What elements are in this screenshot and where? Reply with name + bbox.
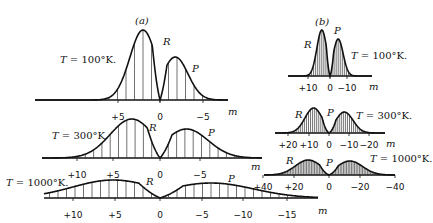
tick-label: −20 <box>360 140 379 150</box>
branch-label-r: R <box>285 155 294 166</box>
axis-label-m: m <box>369 81 378 92</box>
axis-label-m: m <box>228 106 237 117</box>
branch-label-r: R <box>294 109 303 120</box>
branch-label-p: P <box>333 25 341 36</box>
temperature-label: T = 300°K. <box>356 110 412 121</box>
panel-2: +10+50−5−10−15T = 1000°K.RPm <box>6 173 327 220</box>
tick-label: −5 <box>196 112 209 122</box>
panel-5: +40+200−20−40T = 1000°K.RP <box>254 153 433 192</box>
branch-label-p: P <box>191 63 199 74</box>
tick-label: +40 <box>254 182 273 192</box>
tick-label: +5 <box>111 112 124 122</box>
axis-label-m: m <box>386 138 395 149</box>
tick-label: +10 <box>300 140 319 150</box>
tick-label: 0 <box>157 170 163 180</box>
tick-label: −10 <box>340 140 359 150</box>
tick-label: 0 <box>326 182 332 192</box>
tick-label: −15 <box>278 210 297 220</box>
branch-label-r: R <box>145 176 154 187</box>
tick-label: 0 <box>157 210 163 220</box>
branch-label-r: R <box>148 122 157 133</box>
tick-label: −40 <box>386 182 405 192</box>
tick-label: −5 <box>195 210 208 220</box>
tick-label: 0 <box>157 112 163 122</box>
temperature-label: T = 1000°K. <box>370 153 433 164</box>
panel-label: (a) <box>135 15 149 26</box>
tick-label: 0 <box>327 83 333 93</box>
axis-label-m: m <box>318 205 327 216</box>
temperature-label: T = 100°K. <box>60 54 116 65</box>
branch-label-r: R <box>303 39 312 50</box>
tick-label: +10 <box>299 83 318 93</box>
temperature-label: T = 100°K. <box>351 50 407 61</box>
tick-label: +10 <box>68 170 87 180</box>
panel-label: (b) <box>315 16 329 27</box>
tick-label: −20 <box>351 182 370 192</box>
tick-label: +20 <box>285 182 304 192</box>
panel-3: +100−10T = 100°K.(b)RPm <box>288 16 407 93</box>
tick-label: +10 <box>64 210 83 220</box>
panel-0: +50−5T = 100°K.(a)RPm <box>35 15 237 122</box>
intensity-envelope <box>35 30 228 100</box>
temperature-label: T = 300°K. <box>52 130 108 141</box>
tick-label: +5 <box>106 170 119 180</box>
axis-label-m: m <box>251 161 260 172</box>
temperature-label: T = 1000°K. <box>6 177 69 188</box>
branch-label-p: P <box>326 107 334 118</box>
panel-1: +10+50−5T = 300°K.RPm <box>42 119 262 180</box>
branch-label-p: P <box>207 127 215 138</box>
tick-label: +5 <box>108 210 121 220</box>
branch-label-p: P <box>227 173 235 184</box>
tick-label: +20 <box>279 140 298 150</box>
rotational-band-figure: +50−5T = 100°K.(a)RPm+10+50−5T = 300°K.R… <box>0 0 433 223</box>
panel-4: +20+100−10−20T = 300°K.RPm <box>275 107 412 150</box>
tick-label: −10 <box>234 210 253 220</box>
branch-label-r: R <box>162 36 171 47</box>
tick-label: −5 <box>193 170 206 180</box>
tick-label: 0 <box>326 140 332 150</box>
branch-label-p: P <box>325 157 333 168</box>
tick-label: −10 <box>338 83 357 93</box>
intensity-envelope <box>44 180 318 198</box>
